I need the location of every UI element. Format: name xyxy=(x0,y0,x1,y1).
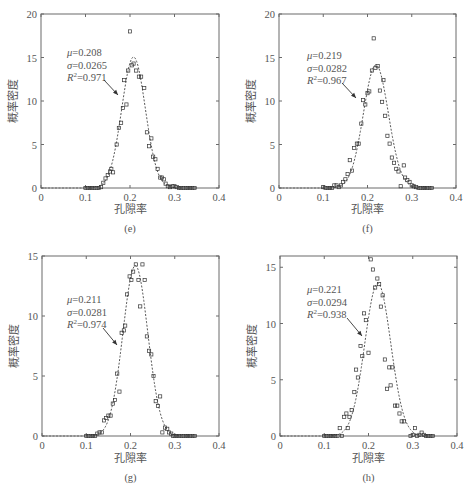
annotation-r2: R2=0.971 xyxy=(66,71,106,83)
data-point xyxy=(385,387,388,390)
y-tick-label: 0 xyxy=(270,183,275,194)
data-point xyxy=(396,404,399,407)
data-point xyxy=(338,427,341,430)
data-point xyxy=(376,277,379,280)
data-point xyxy=(369,258,372,261)
y-tick-label: 15 xyxy=(266,262,277,273)
data-point xyxy=(388,142,391,145)
data-point xyxy=(413,427,416,430)
y-axis-label: 概率密度 xyxy=(245,324,259,368)
x-tick-label: 0.3 xyxy=(168,192,181,203)
data-point xyxy=(161,431,164,434)
x-tick-label: 0.3 xyxy=(406,440,419,451)
y-tick-label: 10 xyxy=(265,96,276,107)
data-points xyxy=(85,263,197,438)
annotation-mu: μ=0.219 xyxy=(306,50,342,61)
data-point xyxy=(355,368,358,371)
x-axis-label: 孔隙率 xyxy=(114,451,147,465)
data-point xyxy=(345,412,348,415)
x-tick-label: 0.1 xyxy=(79,192,92,203)
normal-fit-curve xyxy=(86,266,197,436)
x-tick-label: 0.2 xyxy=(124,440,137,451)
x-tick-label: 0.1 xyxy=(80,440,93,451)
data-point xyxy=(388,366,391,369)
data-point xyxy=(125,103,128,106)
y-tick-label: 5 xyxy=(33,371,38,382)
y-tick-label: 20 xyxy=(27,9,38,20)
annotation-sigma: σ=0.0265 xyxy=(67,60,107,71)
x-tick-label: 0.2 xyxy=(362,440,375,451)
x-tick-label: 0 xyxy=(38,192,43,203)
data-point xyxy=(420,431,423,434)
data-point xyxy=(145,131,148,134)
data-point xyxy=(154,400,157,403)
data-point xyxy=(389,384,392,387)
y-axis-label: 概率密度 xyxy=(7,324,21,368)
data-point xyxy=(399,185,402,188)
y-axis-label: 概率密度 xyxy=(6,79,20,123)
data-point xyxy=(137,278,140,281)
panel-caption: (f) xyxy=(362,223,373,235)
y-tick-label: 0 xyxy=(33,431,38,442)
y-tick-label: 10 xyxy=(27,96,38,107)
data-point xyxy=(343,415,346,418)
plot-frame xyxy=(41,14,219,188)
chart-panel-g: 00.10.20.30.4051015孔隙率概率密度(g)μ=0.211σ=0.… xyxy=(7,251,226,484)
panel-caption: (h) xyxy=(362,472,375,484)
x-tick-label: 0.4 xyxy=(450,440,464,451)
data-point xyxy=(123,79,126,82)
x-tick-label: 0.3 xyxy=(405,192,418,203)
data-point xyxy=(159,395,162,398)
data-point xyxy=(139,305,142,308)
x-tick-label: 0 xyxy=(39,440,44,451)
data-point xyxy=(111,171,114,174)
data-point xyxy=(350,409,353,412)
x-tick-label: 0.1 xyxy=(317,192,330,203)
x-tick-label: 0 xyxy=(277,440,282,451)
data-point xyxy=(348,415,351,418)
data-point xyxy=(346,172,349,175)
annotation-mu: μ=0.211 xyxy=(66,294,101,305)
data-point xyxy=(383,358,386,361)
data-point xyxy=(379,305,382,308)
data-point xyxy=(400,420,403,423)
data-point xyxy=(353,146,356,149)
panel-caption: (e) xyxy=(124,223,136,235)
y-tick-label: 5 xyxy=(270,140,275,151)
y-tick-label: 10 xyxy=(28,311,39,322)
x-tick-label: 0.3 xyxy=(168,440,181,451)
y-axis-label: 概率密度 xyxy=(244,79,258,123)
y-tick-label: 20 xyxy=(265,9,276,20)
annotation-r2: R2=0.938 xyxy=(306,308,346,320)
data-point xyxy=(148,145,151,148)
x-tick-label: 0.2 xyxy=(123,192,136,203)
data-point xyxy=(361,99,364,102)
x-axis-label: 孔隙率 xyxy=(352,451,385,465)
data-point xyxy=(367,351,370,354)
data-point xyxy=(135,69,138,72)
chart-panel-e: 00.10.20.30.405101520孔隙率概率密度(e)μ=0.208σ=… xyxy=(6,9,226,235)
chart-panel-f: 00.10.20.30.405101520孔隙率概率密度(f)μ=0.219σ=… xyxy=(244,9,463,235)
data-point xyxy=(143,86,146,89)
x-tick-label: 0 xyxy=(276,192,281,203)
y-tick-label: 10 xyxy=(266,319,277,330)
figure-grid: 00.10.20.30.405101520孔隙率概率密度(e)μ=0.208σ=… xyxy=(0,0,472,489)
x-axis-label: 孔隙率 xyxy=(114,202,147,216)
data-point xyxy=(384,114,387,117)
x-tick-label: 0.4 xyxy=(212,192,226,203)
y-tick-label: 0 xyxy=(271,431,276,442)
data-point xyxy=(364,319,367,322)
plot-frame xyxy=(280,256,457,436)
data-point xyxy=(141,263,144,266)
y-tick-label: 15 xyxy=(27,53,38,64)
data-point xyxy=(391,366,394,369)
x-tick-label: 0.1 xyxy=(318,440,331,451)
data-point xyxy=(402,420,405,423)
x-tick-label: 0.2 xyxy=(361,192,374,203)
data-point xyxy=(371,268,374,271)
data-point xyxy=(378,89,381,92)
y-tick-label: 15 xyxy=(28,251,39,262)
y-tick-label: 5 xyxy=(32,140,37,151)
data-point xyxy=(390,156,393,159)
annotation-sigma: σ=0.0282 xyxy=(307,63,347,74)
